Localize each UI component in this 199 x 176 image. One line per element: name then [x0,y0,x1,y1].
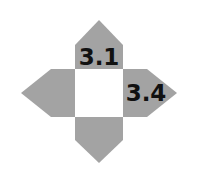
center-square [75,69,123,117]
arm-up-label: 3.1 [79,44,120,70]
arm-right-label: 3.4 [126,80,167,106]
figure-canvas: 3.1 3.4 [0,0,199,176]
four-arm-diamond-diagram: 3.1 3.4 [0,0,199,176]
arm-left-shape [21,69,75,117]
arm-down-shape [75,117,123,163]
